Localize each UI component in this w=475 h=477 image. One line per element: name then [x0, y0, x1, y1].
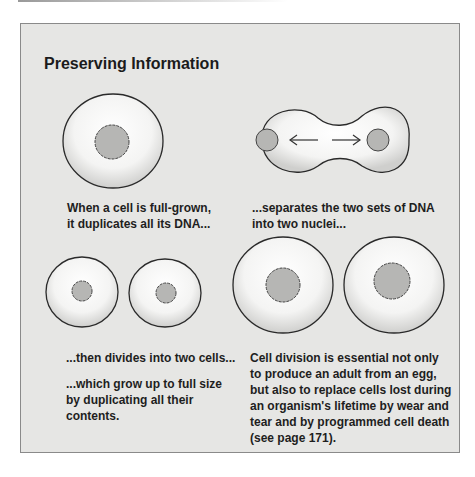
caption-step3: ...then divides into two cells... [66, 350, 235, 366]
caption-step4: ...which grow up to full size by duplica… [66, 376, 222, 424]
nucleus-left [256, 129, 278, 151]
dividing-cell [256, 107, 409, 172]
caption-step2: ...separates the two sets of DNA into tw… [252, 200, 435, 232]
full-grown-cell [63, 94, 163, 188]
caption-note: Cell division is essential not only to p… [250, 350, 451, 446]
daughter-cells-grown [233, 237, 444, 333]
daughter-cells-small [46, 257, 201, 327]
caption-step1: When a cell is full-grown, it duplicates… [67, 200, 211, 232]
nucleus-right [367, 129, 389, 151]
